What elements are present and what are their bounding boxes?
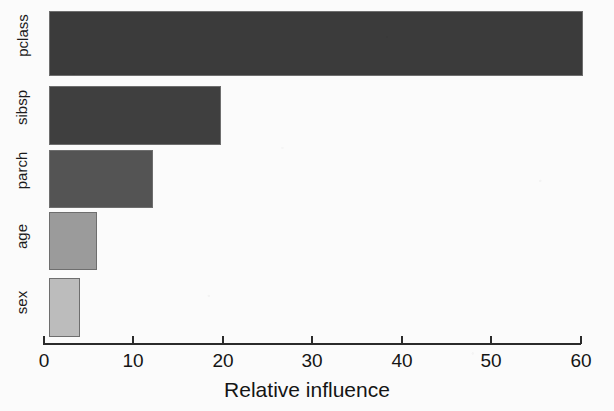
bar-sex (49, 278, 80, 337)
bar-age (49, 212, 97, 270)
bar-row: age (0, 212, 614, 270)
category-label-age: age (0, 228, 44, 245)
x-axis-tick-label: 30 (282, 350, 342, 372)
bar-row: sex (0, 278, 614, 337)
bar-pclass (49, 11, 583, 76)
category-label-text: sex (14, 291, 31, 314)
category-label-sex: sex (0, 294, 44, 311)
category-label-parch: parch (0, 162, 44, 179)
bar-row: pclass (0, 11, 614, 76)
x-axis-tick (580, 336, 582, 344)
relative-influence-bar-chart: pclass sibsp parch age (0, 0, 614, 411)
x-axis-tick-label: 0 (14, 350, 74, 372)
category-label-text: parch (14, 152, 31, 190)
x-axis-tick-label: 20 (193, 350, 253, 372)
x-axis-tick (132, 336, 134, 344)
category-label-text: age (14, 224, 31, 249)
category-label-text: sibsp (14, 90, 31, 125)
bar-sibsp (49, 86, 221, 145)
category-label-pclass: pclass (0, 27, 44, 44)
bar-row: sibsp (0, 86, 614, 145)
category-label-sibsp: sibsp (0, 99, 44, 116)
bar-parch (49, 150, 153, 208)
x-axis-tick (43, 336, 45, 344)
plot-area: pclass sibsp parch age (0, 0, 614, 345)
bar-row: parch (0, 150, 614, 208)
category-label-text: pclass (14, 14, 31, 57)
x-axis-tick-label: 10 (103, 350, 163, 372)
x-axis-tick (222, 336, 224, 344)
x-axis-tick-label: 60 (551, 350, 611, 372)
x-axis-tick (311, 336, 313, 344)
x-axis-tick-label: 40 (372, 350, 432, 372)
x-axis-tick (490, 336, 492, 344)
x-axis-tick-label: 50 (461, 350, 521, 372)
x-axis-title: Relative influence (0, 378, 614, 402)
x-axis-tick (401, 336, 403, 344)
